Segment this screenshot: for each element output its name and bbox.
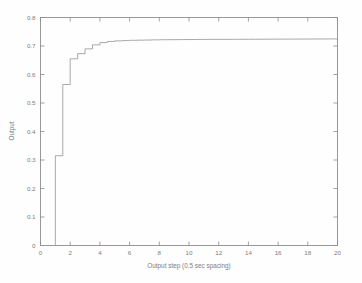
x-tick-label: 8 bbox=[158, 249, 162, 256]
x-tick-label: 16 bbox=[275, 249, 282, 256]
figure-canvas: 00.10.20.30.40.50.60.70.8 02468101214161… bbox=[0, 0, 362, 283]
y-axis-ticks: 00.10.20.30.40.50.60.70.8 bbox=[27, 14, 338, 249]
x-tick-label: 14 bbox=[245, 249, 252, 256]
y-tick-label: 0.1 bbox=[27, 213, 36, 220]
y-tick-label: 0 bbox=[32, 242, 36, 249]
series-output-line bbox=[41, 39, 338, 246]
x-tick-label: 12 bbox=[215, 249, 222, 256]
x-tick-label: 4 bbox=[98, 249, 102, 256]
x-tick-label: 6 bbox=[128, 249, 132, 256]
y-tick-label: 0.4 bbox=[27, 128, 36, 135]
y-tick-label: 0.5 bbox=[27, 99, 36, 106]
x-tick-label: 20 bbox=[334, 249, 341, 256]
step-response-chart: 00.10.20.30.40.50.60.70.8 02468101214161… bbox=[0, 0, 362, 283]
data-series-group bbox=[41, 39, 338, 246]
x-axis-ticks: 02468101214161820 bbox=[39, 18, 342, 256]
y-tick-label: 0.7 bbox=[27, 42, 36, 49]
y-tick-label: 0.2 bbox=[27, 185, 36, 192]
x-tick-label: 2 bbox=[68, 249, 72, 256]
y-tick-label: 0.3 bbox=[27, 156, 36, 163]
y-axis-label: Output bbox=[8, 121, 16, 140]
x-tick-label: 0 bbox=[39, 249, 43, 256]
x-tick-label: 10 bbox=[186, 249, 193, 256]
y-tick-label: 0.8 bbox=[27, 14, 36, 21]
x-axis-label: Output step (0.5 sec spacing) bbox=[147, 262, 230, 270]
y-tick-label: 0.6 bbox=[27, 71, 36, 78]
x-tick-label: 18 bbox=[304, 249, 311, 256]
